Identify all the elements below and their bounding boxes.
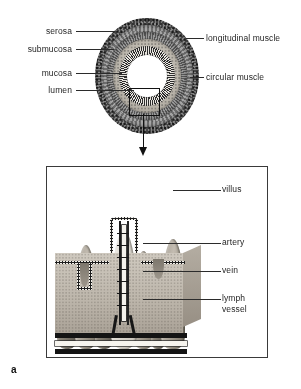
leader-artery (143, 243, 221, 244)
leader-serosa (76, 31, 115, 32)
label-vein: vein (222, 265, 238, 276)
leader-longitudinal-muscle (186, 38, 204, 39)
lymph-vessel-lacteal (122, 225, 126, 321)
block-side-face (183, 245, 201, 327)
capillary (117, 305, 129, 306)
tissue-block (55, 175, 201, 349)
down-arrow-icon (139, 147, 147, 156)
submucosal-lymph-band (55, 341, 187, 346)
vein-vessel (127, 221, 129, 325)
label-villus: villus (222, 184, 242, 195)
intestine-cross-section (95, 18, 199, 134)
label-serosa: serosa (20, 26, 72, 37)
arrow-stem (143, 114, 144, 150)
figure-marker: a (11, 364, 17, 375)
capillary (117, 269, 129, 270)
leader-villus (173, 190, 221, 191)
label-artery: artery (222, 237, 244, 248)
label-circular-muscle: circular muscle (206, 72, 264, 83)
leader-submucosa (76, 49, 114, 50)
capillary (117, 245, 129, 246)
label-mucosa: mucosa (18, 68, 72, 79)
leader-lumen (76, 90, 134, 91)
label-submucosa: submucosa (5, 44, 72, 55)
magnification-box (129, 88, 160, 116)
capillary (117, 257, 129, 258)
label-lymph-vessel-line2: vessel (222, 304, 247, 315)
submucosal-vein-band (55, 349, 187, 354)
label-lymph-vessel-line1: lymph (222, 293, 245, 304)
capillary (117, 293, 129, 294)
capillary (117, 233, 129, 234)
leader-circular-muscle (190, 77, 204, 78)
label-longitudinal-muscle: longitudinal muscle (206, 33, 280, 44)
leader-lymph-vessel (143, 299, 221, 300)
leader-vein (143, 271, 221, 272)
crypt-lining (89, 263, 92, 289)
submucosal-artery-band (55, 333, 187, 338)
artery-vessel (119, 221, 121, 325)
crypt-lining (77, 287, 92, 290)
epithelium-border (111, 217, 137, 220)
capillary (117, 281, 129, 282)
label-lumen: lumen (22, 85, 72, 96)
figure-canvas: serosa submucosa mucosa lumen longitudin… (0, 0, 301, 389)
leader-mucosa (76, 73, 122, 74)
villus-detail-panel (46, 166, 268, 358)
